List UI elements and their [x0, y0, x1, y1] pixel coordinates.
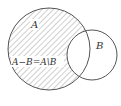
set-b-label: B: [95, 40, 103, 51]
set-b-circle: [67, 30, 117, 80]
venn-diagram: A B A−B=A\B: [0, 0, 121, 106]
region-label: A−B=A\B: [11, 57, 57, 67]
set-a-label: A: [30, 19, 38, 30]
